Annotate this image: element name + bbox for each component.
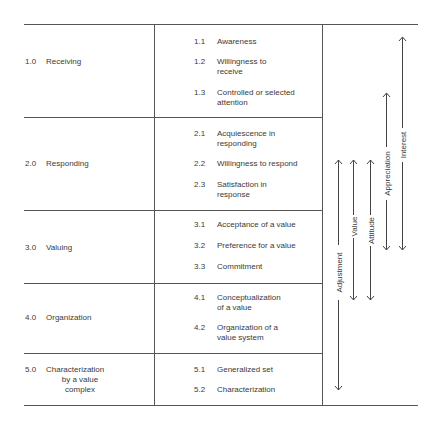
range-label: Appreciation bbox=[383, 151, 392, 195]
range-label: Attitude bbox=[367, 216, 376, 244]
range-arrows: Adjustment Value Attitude Appreciation I… bbox=[0, 0, 429, 426]
range-label: Adjustment bbox=[335, 252, 344, 293]
range-label: Interest bbox=[399, 131, 408, 158]
range-label: Value bbox=[350, 216, 359, 236]
